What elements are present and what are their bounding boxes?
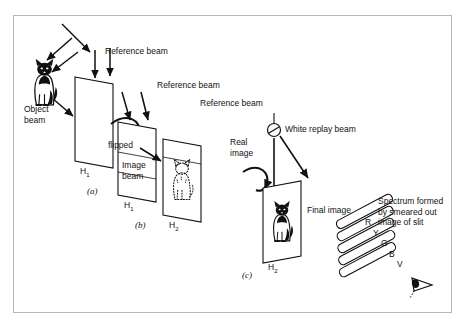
label-spectrum-caption: Spectrum formed by smeared out image of … [378, 196, 443, 228]
observer-eye-group [410, 278, 432, 298]
figure-root: Reference beam Reference beam Reference … [0, 0, 466, 328]
reference-beam-arrow-a1 [62, 24, 90, 52]
plate-label-h2-b-sub: 2 [175, 226, 178, 232]
reference-beam-arrow-b1 [122, 92, 130, 120]
label-white-replay-beam: White replay beam [285, 124, 356, 134]
plate-label-h1-a-sub: 1 [86, 172, 89, 178]
label-image-beam: Image beam [122, 160, 146, 181]
panel-letter-c: (c) [242, 270, 252, 280]
label-reference-beam-3: Reference beam [200, 98, 263, 108]
panel-letter-b: (b) [135, 220, 146, 230]
panel-c-group [263, 113, 308, 263]
white-replay-beam-arrow-diagonal [280, 136, 308, 178]
rotate-arrow-icon-2 [243, 168, 267, 186]
plate-label-h2-b: H2 [169, 220, 178, 234]
label-real-image: Real image [230, 137, 253, 158]
spectrum-letter-Y: Y [373, 228, 379, 238]
plate-label-h1-a: H1 [80, 166, 89, 180]
spectrum-letter-R: R [365, 217, 371, 227]
spectrum-letter-G: G [381, 238, 388, 248]
spectrum-letter-B: B [389, 249, 395, 259]
label-final-image: Final image [307, 205, 351, 215]
plate-label-h1-b-sub: 1 [130, 206, 133, 212]
plate-h2-b [163, 139, 201, 222]
panel-a-group [35, 24, 113, 168]
label-reference-beam-1: Reference beam [105, 46, 168, 56]
object-beam-arrow [52, 98, 73, 116]
label-flipped: flipped [108, 140, 133, 150]
plate-label-h2-c-sub: 2 [274, 268, 277, 274]
object-illumination-arrow-2 [52, 52, 78, 72]
plate-label-h1-b: H1 [124, 200, 133, 214]
plate-h1-a [75, 77, 113, 168]
diagram-canvas [0, 0, 466, 328]
plate-label-h2-c: H2 [268, 262, 277, 276]
cat-silhouette-icon [35, 59, 57, 106]
panel-letter-a: (a) [87, 186, 98, 196]
label-reference-beam-2: Reference beam [157, 80, 220, 90]
object-illumination-arrow-1 [47, 38, 72, 60]
label-object-beam: Object beam [24, 104, 49, 125]
reference-beam-arrow-b2 [141, 92, 148, 120]
spectrum-letter-V: V [397, 259, 403, 269]
